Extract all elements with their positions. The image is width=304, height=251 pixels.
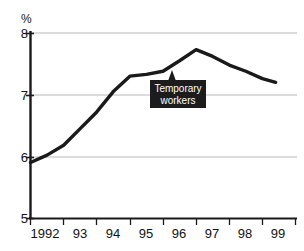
callout-line-2: workers	[154, 95, 202, 107]
temporary-workers-line-chart: % 8 7 6 5 1992 93 94 95 96 97 98 99	[0, 0, 304, 251]
chart-plot-area	[0, 0, 304, 251]
temporary-workers-callout: Temporary workers	[150, 80, 206, 108]
callout-line-1: Temporary	[154, 83, 202, 95]
